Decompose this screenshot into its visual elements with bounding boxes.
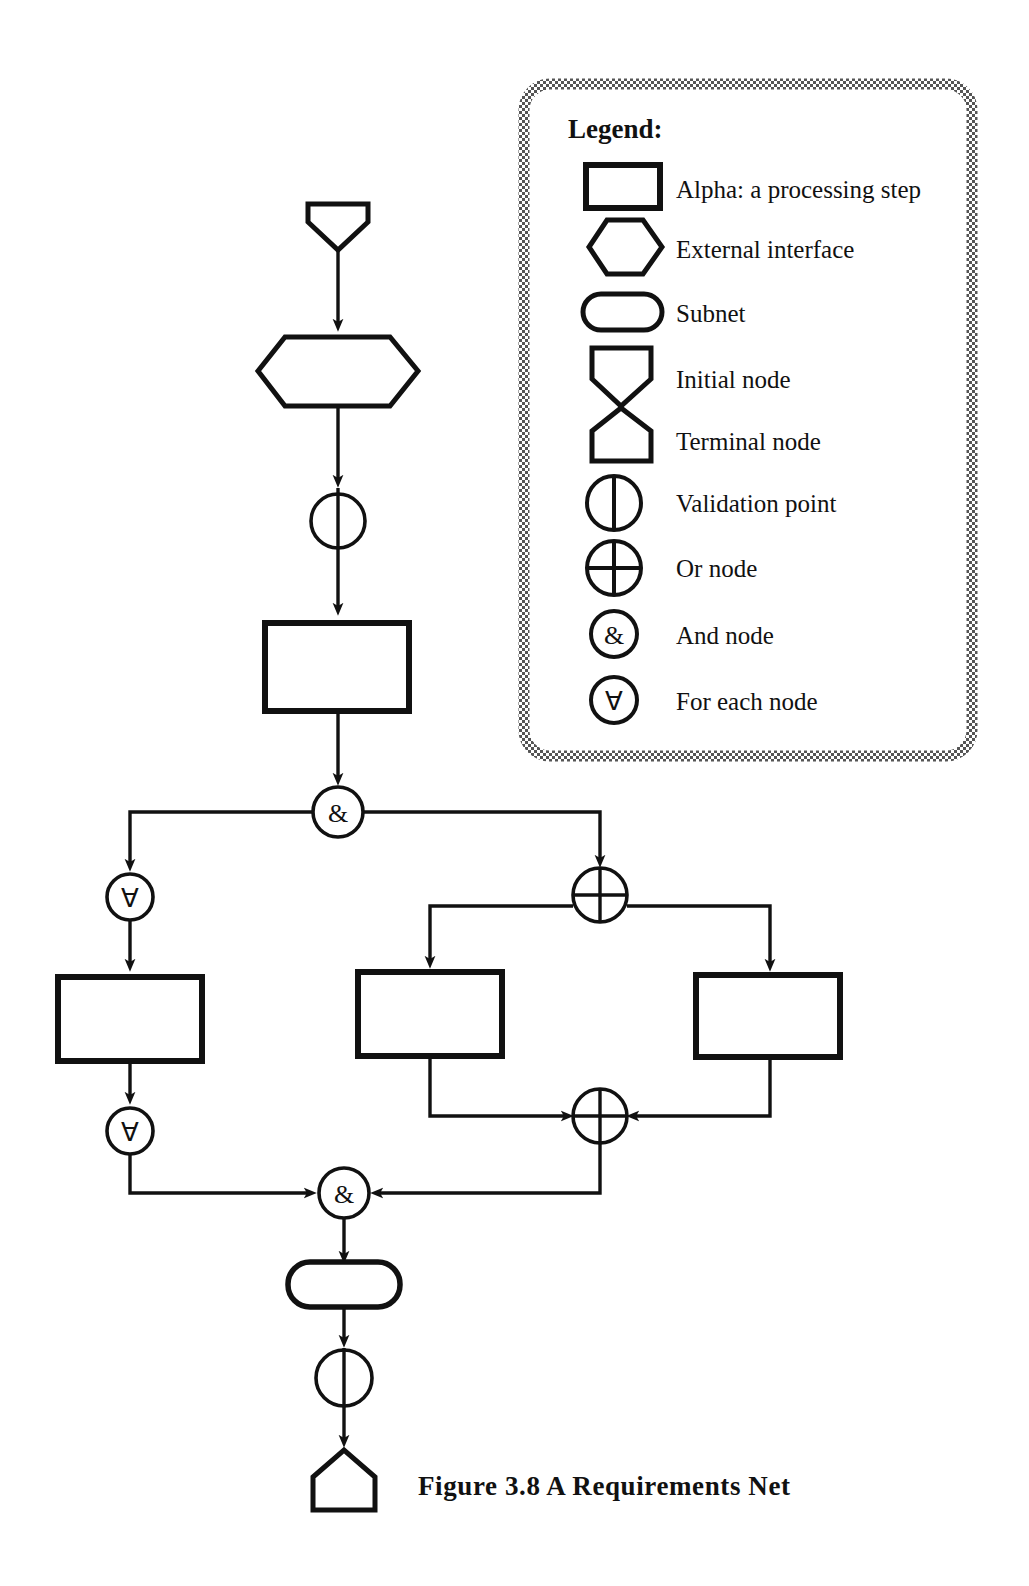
- alpha-step-top: [265, 623, 409, 711]
- legend-item-validation-point: Validation point: [587, 476, 836, 530]
- legend-item-terminal-node: Terminal node: [592, 408, 821, 461]
- legend-label-validation-point: Validation point: [676, 490, 836, 517]
- legend-panel: Legend: Alpha: a processing step Externa…: [524, 84, 972, 756]
- for-each-node-glyph: ∀: [605, 687, 623, 716]
- edge-and-fork-to-for-each-upper: [130, 812, 313, 866]
- legend-label-subnet: Subnet: [676, 300, 746, 327]
- edge-or-split-to-alpha-middle: [430, 906, 573, 963]
- subnet: [288, 1262, 400, 1307]
- alpha-step-left: [58, 977, 202, 1061]
- legend-label-or-node: Or node: [676, 555, 757, 582]
- edge-for-each-lower-to-and-join: [130, 1154, 311, 1193]
- legend-label-terminal-node: Terminal node: [676, 428, 821, 455]
- alpha-processing-step-icon: [586, 165, 660, 208]
- initial-node-icon: [592, 348, 651, 406]
- figure-caption: Figure 3.8 A Requirements Net: [418, 1471, 791, 1501]
- edge-alpha-right-to-or-join: [632, 1057, 770, 1116]
- terminal-node: [313, 1450, 375, 1510]
- subnet-icon: [583, 294, 662, 330]
- requirements-net-diagram: Legend: Alpha: a processing step Externa…: [0, 0, 1029, 1586]
- external-interface-icon: [589, 220, 662, 274]
- initial-node: [308, 204, 368, 250]
- legend-label-and-node: And node: [676, 622, 774, 649]
- legend-item-or-node: Or node: [587, 541, 757, 595]
- legend-item-initial-node: Initial node: [592, 348, 791, 406]
- alpha-step-right: [696, 975, 840, 1057]
- legend-item-subnet: Subnet: [583, 294, 746, 330]
- legend-label-external-interface: External interface: [676, 236, 854, 263]
- edge-or-split-to-alpha-right: [627, 906, 770, 966]
- for-each-node-lower-glyph: ∀: [121, 1118, 139, 1147]
- legend-label-initial-node: Initial node: [676, 366, 791, 393]
- and-node-fork-glyph: &: [328, 799, 348, 828]
- legend-title: Legend:: [568, 114, 663, 144]
- edge-alpha-middle-to-or-join: [430, 1056, 568, 1116]
- legend-label-for-each-node: For each node: [676, 688, 818, 715]
- legend-label-alpha: Alpha: a processing step: [676, 176, 921, 203]
- terminal-node-icon: [592, 408, 651, 461]
- edge-and-fork-to-or-split: [363, 812, 600, 862]
- external-interface-hexagon: [258, 337, 418, 406]
- legend-item-alpha: Alpha: a processing step: [586, 165, 921, 208]
- legend-item-for-each-node: ∀ For each node: [591, 677, 818, 723]
- alpha-step-middle: [358, 972, 502, 1056]
- and-node-join-glyph: &: [334, 1180, 354, 1209]
- edge-or-join-to-and-join: [376, 1143, 600, 1193]
- figure-page: Legend: Alpha: a processing step Externa…: [0, 0, 1029, 1586]
- for-each-node-upper-glyph: ∀: [121, 884, 139, 913]
- and-node-glyph: &: [604, 621, 624, 650]
- legend-item-external-interface: External interface: [589, 220, 854, 274]
- legend-item-and-node: & And node: [591, 611, 774, 657]
